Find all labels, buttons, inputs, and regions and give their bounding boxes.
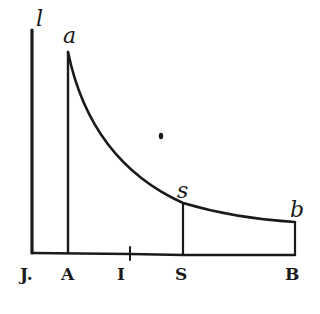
label-a: a xyxy=(63,23,76,48)
ink-dot xyxy=(159,133,163,139)
label-I: I xyxy=(117,264,125,284)
label-B: B xyxy=(285,264,299,284)
diagram-canvas: l a s b J. A I S B xyxy=(0,0,320,314)
label-s: s xyxy=(177,178,188,203)
label-A: A xyxy=(60,264,75,284)
label-b: b xyxy=(290,197,304,222)
baseline xyxy=(32,253,295,255)
label-S: S xyxy=(175,264,187,284)
label-l: l xyxy=(36,6,43,31)
label-J: J. xyxy=(18,264,33,284)
